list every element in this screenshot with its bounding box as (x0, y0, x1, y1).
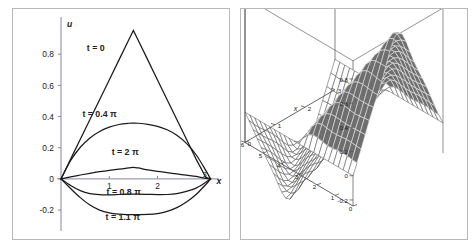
z-axis-tick-label: 0.6 (339, 100, 348, 107)
z-axis-tick-label: 0 (345, 172, 349, 179)
x-axis-tick-3d (271, 123, 275, 125)
z-axis-tick-label: 0.4 (339, 124, 348, 131)
z-axis-tick-label: 0.2 (339, 148, 348, 155)
x-axis-tick-label-3d: 1 (278, 122, 282, 129)
y-axis-tick-label: 0 (49, 174, 54, 184)
data-curve (61, 167, 211, 179)
y-axis-tick-label: -0.2 (40, 205, 55, 215)
curve-annotation: t = 0.4 π (82, 109, 117, 119)
t-axis-tick (317, 183, 321, 185)
panel-3d-surface-plot: -0.200.20.40.60.801234560123xt (237, 0, 473, 250)
t-axis-tick-label: 0 (349, 205, 353, 212)
curve-annotation: t = 2 π (112, 147, 139, 157)
t-axis-tick (353, 205, 357, 207)
y-axis-tick-label: 0.4 (42, 112, 54, 122)
panel-2d-line-plot: -0.200.20.40.60.8u123xt = 0t = 0.4 πt = … (0, 0, 237, 250)
annotations-group-2d: t = 0t = 0.4 πt = 2 πt = 0.8 πt = 1.1 π (82, 43, 141, 222)
x-axis-title: x (216, 176, 223, 186)
curve-annotation: t = 1.1 π (106, 212, 141, 222)
x-axis-title-3d: x (293, 104, 298, 113)
figure-root: -0.200.20.40.60.8u123xt = 0t = 0.4 πt = … (0, 0, 473, 250)
t-axis-tick-label: 1 (331, 194, 335, 201)
y-axis-title: u (67, 19, 73, 29)
surface-chart-3d: -0.200.20.40.60.801234560123xt (241, 9, 467, 239)
y-axis-tick-label: 0.8 (42, 49, 54, 59)
x-axis-tick-label: 2 (155, 181, 160, 191)
plot-frame-2d: -0.200.20.40.60.8u123xt = 0t = 0.4 πt = … (12, 8, 230, 240)
plot-frame-3d: -0.200.20.40.60.801234560123xt (240, 8, 468, 240)
curve-annotation: t = 0 (87, 43, 105, 53)
z-axis-tick-label: 0.8 (339, 76, 348, 83)
y-axis-tick-label: 0.6 (42, 81, 54, 91)
x-axis-tick-label-3d: 2 (308, 105, 312, 112)
y-axis-tick-label: 0.2 (42, 143, 54, 153)
x-axis-tick-label-3d: 0 (248, 140, 252, 147)
t-axis-tick-label: 5 (259, 152, 263, 159)
line-chart-2d: -0.200.20.40.60.8u123xt = 0t = 0.4 πt = … (13, 9, 229, 239)
x-axis-tick-label-3d: 3 (338, 87, 342, 94)
x-axis-tick-3d (301, 106, 305, 108)
t-axis-tick-label: 4 (277, 162, 281, 169)
curve-annotation: t = 0.8 π (107, 187, 142, 197)
axis-box-edge (245, 9, 353, 61)
t-axis-tick (335, 194, 339, 196)
axes-group-2d: -0.200.20.40.60.8u123x (40, 17, 223, 231)
z-axis-tick-label: -0.2 (337, 197, 348, 204)
t-axis-tick-label: 2 (313, 183, 317, 190)
